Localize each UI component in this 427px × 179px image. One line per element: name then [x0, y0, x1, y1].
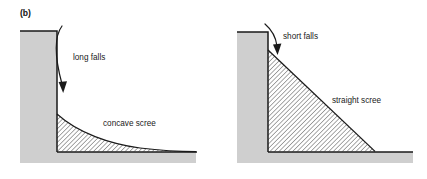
- long-falls-label: long falls: [73, 53, 105, 62]
- concave-scree-label: concave scree: [103, 119, 156, 128]
- figure-root: (b) long falls concave scree: [0, 0, 427, 179]
- panel-tag-b: (b): [20, 8, 31, 18]
- straight-scree-label: straight scree: [332, 96, 382, 105]
- scree-profile-diagram: (b) long falls concave scree: [0, 0, 427, 179]
- short-falls-label: short falls: [283, 32, 318, 41]
